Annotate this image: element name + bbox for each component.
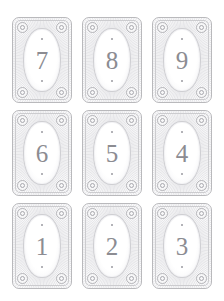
corner-rosette-icon-bl bbox=[87, 180, 98, 191]
pip-dot-bottom bbox=[111, 266, 113, 268]
corner-rosette-icon-tr bbox=[196, 22, 207, 33]
corner-rosette-icon-tl bbox=[157, 208, 168, 219]
corner-rosette-icon-tl bbox=[157, 115, 168, 126]
corner-rosette-icon-tl bbox=[17, 115, 28, 126]
number-card[interactable]: 2 bbox=[82, 203, 142, 289]
number-card[interactable]: 8 bbox=[82, 17, 142, 103]
number-card[interactable]: 6 bbox=[12, 110, 72, 196]
card-numeral: 6 bbox=[24, 141, 60, 166]
corner-rosette-icon-br bbox=[196, 180, 207, 191]
corner-rosette-icon-bl bbox=[87, 87, 98, 98]
corner-rosette-icon-br bbox=[126, 273, 137, 284]
corner-rosette-icon-tr bbox=[56, 22, 67, 33]
pip-dot-top bbox=[41, 131, 43, 133]
corner-rosette-icon-br bbox=[196, 273, 207, 284]
corner-rosette-icon-tr bbox=[196, 115, 207, 126]
card-numeral: 7 bbox=[24, 48, 60, 73]
pip-dot-bottom bbox=[111, 80, 113, 82]
corner-rosette-icon-tl bbox=[17, 208, 28, 219]
card-numeral: 9 bbox=[164, 48, 200, 73]
card-center-oval: 9 bbox=[163, 28, 201, 92]
corner-rosette-icon-tl bbox=[157, 22, 168, 33]
pip-dot-bottom bbox=[111, 173, 113, 175]
number-card-grid: 789654123 bbox=[12, 17, 212, 289]
card-numeral: 8 bbox=[94, 48, 130, 73]
corner-rosette-icon-br bbox=[126, 87, 137, 98]
corner-rosette-icon-bl bbox=[157, 180, 168, 191]
pip-dot-top bbox=[181, 131, 183, 133]
corner-rosette-icon-bl bbox=[17, 87, 28, 98]
corner-rosette-icon-tr bbox=[126, 115, 137, 126]
corner-rosette-icon-bl bbox=[17, 180, 28, 191]
card-numeral: 4 bbox=[164, 141, 200, 166]
corner-rosette-icon-br bbox=[56, 87, 67, 98]
number-card[interactable]: 3 bbox=[152, 203, 212, 289]
number-card[interactable]: 7 bbox=[12, 17, 72, 103]
corner-rosette-icon-tr bbox=[126, 22, 137, 33]
corner-rosette-icon-tr bbox=[56, 115, 67, 126]
pip-dot-bottom bbox=[181, 80, 183, 82]
corner-rosette-icon-tr bbox=[196, 208, 207, 219]
corner-rosette-icon-bl bbox=[17, 273, 28, 284]
corner-rosette-icon-tl bbox=[87, 115, 98, 126]
pip-dot-bottom bbox=[41, 173, 43, 175]
card-numeral: 3 bbox=[164, 234, 200, 259]
corner-rosette-icon-tl bbox=[87, 22, 98, 33]
pip-dot-bottom bbox=[41, 266, 43, 268]
pip-dot-top bbox=[111, 38, 113, 40]
pip-dot-top bbox=[111, 224, 113, 226]
corner-rosette-icon-bl bbox=[87, 273, 98, 284]
corner-rosette-icon-br bbox=[56, 273, 67, 284]
card-numeral: 5 bbox=[94, 141, 130, 166]
number-card[interactable]: 4 bbox=[152, 110, 212, 196]
corner-rosette-icon-br bbox=[126, 180, 137, 191]
corner-rosette-icon-tr bbox=[126, 208, 137, 219]
card-numeral: 2 bbox=[94, 234, 130, 259]
pip-dot-top bbox=[41, 38, 43, 40]
corner-rosette-icon-br bbox=[196, 87, 207, 98]
card-center-oval: 4 bbox=[163, 121, 201, 185]
card-center-oval: 3 bbox=[163, 214, 201, 278]
card-center-oval: 7 bbox=[23, 28, 61, 92]
pip-dot-top bbox=[41, 224, 43, 226]
corner-rosette-icon-tl bbox=[87, 208, 98, 219]
card-center-oval: 2 bbox=[93, 214, 131, 278]
card-center-oval: 5 bbox=[93, 121, 131, 185]
corner-rosette-icon-br bbox=[56, 180, 67, 191]
card-numeral: 1 bbox=[24, 234, 60, 259]
pip-dot-bottom bbox=[181, 173, 183, 175]
pip-dot-top bbox=[181, 38, 183, 40]
card-center-oval: 8 bbox=[93, 28, 131, 92]
corner-rosette-icon-tl bbox=[17, 22, 28, 33]
corner-rosette-icon-tr bbox=[56, 208, 67, 219]
corner-rosette-icon-bl bbox=[157, 273, 168, 284]
pip-dot-top bbox=[181, 224, 183, 226]
card-center-oval: 6 bbox=[23, 121, 61, 185]
card-center-oval: 1 bbox=[23, 214, 61, 278]
pip-dot-bottom bbox=[181, 266, 183, 268]
card-board: 789654123 bbox=[0, 0, 224, 301]
number-card[interactable]: 9 bbox=[152, 17, 212, 103]
pip-dot-top bbox=[111, 131, 113, 133]
corner-rosette-icon-bl bbox=[157, 87, 168, 98]
number-card[interactable]: 5 bbox=[82, 110, 142, 196]
pip-dot-bottom bbox=[41, 80, 43, 82]
number-card[interactable]: 1 bbox=[12, 203, 72, 289]
